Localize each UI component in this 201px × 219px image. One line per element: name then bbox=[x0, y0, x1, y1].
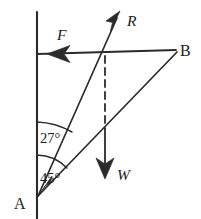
force-diagram-figure: R F W B A 27° 45° bbox=[0, 0, 201, 219]
vector-label-r: R bbox=[126, 12, 137, 29]
angle-label-45: 45° bbox=[40, 170, 61, 186]
point-label-a: A bbox=[14, 195, 26, 212]
vector-label-w: W bbox=[117, 166, 132, 183]
point-label-b: B bbox=[180, 42, 191, 59]
vector-label-f: F bbox=[56, 26, 67, 43]
diagram-canvas: R F W B A 27° 45° bbox=[0, 0, 201, 219]
angle-label-27: 27° bbox=[40, 130, 61, 146]
